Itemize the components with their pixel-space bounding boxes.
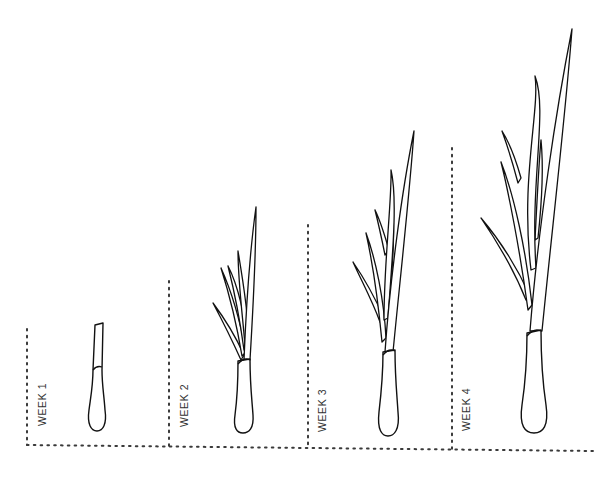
growth-diagram xyxy=(0,0,609,478)
leek-week-2 xyxy=(213,207,256,433)
leek-week-4 xyxy=(481,29,572,433)
baseline-dotted xyxy=(27,445,593,451)
stage-label-week-1: WEEK 1 xyxy=(36,383,48,426)
leek-week-3 xyxy=(353,131,414,436)
leek-week-1 xyxy=(88,323,105,431)
stage-label-week-2: WEEK 2 xyxy=(178,384,190,427)
stage-label-week-4: WEEK 4 xyxy=(460,388,472,431)
stage-label-week-3: WEEK 3 xyxy=(316,389,328,432)
